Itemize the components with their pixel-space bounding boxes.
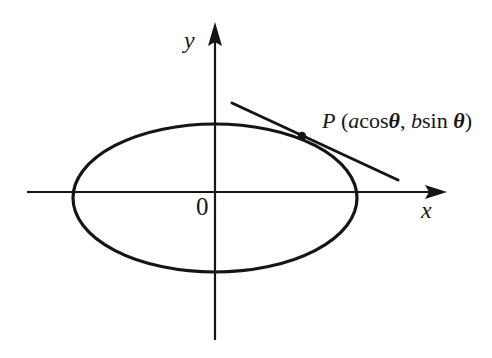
point-p-paren-close: ) — [465, 108, 472, 133]
origin-label: 0 — [196, 194, 209, 219]
point-p-coef-b: b — [411, 108, 422, 133]
figure-canvas — [0, 0, 492, 358]
point-p-theta-second: θ — [453, 108, 464, 133]
point-p-theta-first: θ — [389, 108, 400, 133]
point-p-cos: cos — [359, 108, 388, 133]
point-p-comma: , — [400, 108, 411, 133]
point-p-sin: sin — [422, 108, 448, 133]
x-axis-label: x — [421, 198, 432, 222]
point-p-name: P — [322, 108, 335, 133]
ellipse-tangent-figure: y x 0 P (acosθ, bsin θ) — [0, 0, 492, 358]
point-p-marker — [298, 132, 306, 140]
point-p-coef-a: a — [348, 108, 359, 133]
y-axis-label: y — [184, 28, 195, 52]
point-p-label: P (acosθ, bsin θ) — [322, 110, 472, 132]
